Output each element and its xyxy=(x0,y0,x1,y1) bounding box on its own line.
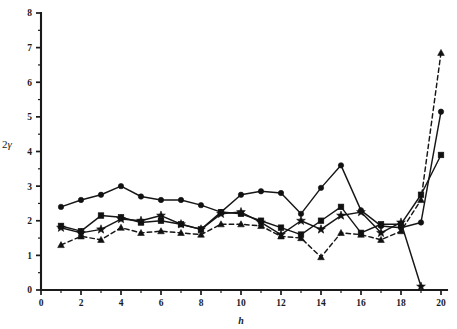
circle-marker xyxy=(78,197,83,202)
circle-marker xyxy=(138,194,143,199)
series-square-series xyxy=(58,152,444,237)
x-tick-label: 0 xyxy=(39,298,44,308)
x-tick-label: 10 xyxy=(236,298,246,308)
circle-marker xyxy=(258,189,263,194)
y-axis-title: 2γ xyxy=(2,138,12,150)
series-star-series xyxy=(57,207,426,290)
star-marker xyxy=(317,225,326,233)
y-tick-label: 3 xyxy=(27,182,32,192)
data-series-group xyxy=(57,49,445,290)
circle-marker xyxy=(118,183,123,188)
y-tick-label: 7 xyxy=(27,43,32,53)
x-tick-label: 14 xyxy=(316,298,326,308)
circle-marker xyxy=(338,163,343,168)
circle-marker xyxy=(278,190,283,195)
chart-figure: 01234567802468101214161820 h 2γ xyxy=(0,0,457,329)
square-marker xyxy=(338,204,344,210)
circle-marker xyxy=(418,220,423,225)
circle-marker xyxy=(198,202,203,207)
x-tick-label: 16 xyxy=(356,298,366,308)
triangle-marker xyxy=(318,254,325,260)
y-tick-label: 2 xyxy=(27,216,32,226)
series-triangle-series xyxy=(58,49,445,259)
circle-marker xyxy=(158,197,163,202)
y-tick-label: 1 xyxy=(27,251,32,261)
circle-marker xyxy=(98,192,103,197)
x-tick-label: 4 xyxy=(119,298,124,308)
star-marker xyxy=(97,225,106,233)
triangle-marker xyxy=(118,224,125,230)
circle-marker xyxy=(178,197,183,202)
x-tick-label: 8 xyxy=(199,298,204,308)
y-tick-label: 6 xyxy=(27,78,32,88)
x-tick-label: 2 xyxy=(79,298,84,308)
circle-marker xyxy=(238,192,243,197)
x-tick-label: 6 xyxy=(159,298,164,308)
y-tick-label: 4 xyxy=(27,147,32,157)
tick-labels: 01234567802468101214161820 xyxy=(27,8,446,308)
axes xyxy=(36,13,447,295)
square-marker xyxy=(378,221,384,227)
series-circle-series xyxy=(58,109,443,230)
x-tick-label: 20 xyxy=(436,298,446,308)
x-tick-label: 12 xyxy=(276,298,286,308)
x-tick-label: 18 xyxy=(396,298,406,308)
x-axis-title: h xyxy=(238,315,244,326)
triangle-marker xyxy=(438,49,445,55)
square-marker xyxy=(318,218,324,224)
circle-marker xyxy=(438,109,443,114)
circle-series-line xyxy=(61,112,441,228)
chart-plot-area: 01234567802468101214161820 h xyxy=(0,0,457,329)
square-marker xyxy=(438,152,444,158)
circle-marker xyxy=(58,204,63,209)
y-tick-label: 8 xyxy=(27,8,32,18)
y-tick-label: 5 xyxy=(27,112,32,122)
circle-marker xyxy=(318,185,323,190)
square-marker xyxy=(98,213,104,219)
y-tick-label: 0 xyxy=(27,285,32,295)
